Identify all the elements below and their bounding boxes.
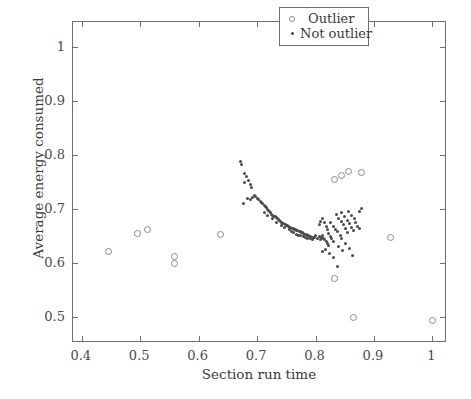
x-tick-label: 0.5: [129, 348, 150, 363]
plot-data-area: [73, 22, 445, 341]
x-tick-top: [432, 22, 433, 27]
data-point-not-outlier: [271, 217, 274, 220]
data-point-not-outlier: [324, 248, 327, 251]
data-point-not-outlier: [295, 233, 298, 236]
data-point-not-outlier: [341, 249, 344, 252]
data-point-not-outlier: [335, 213, 338, 216]
y-tick: [73, 101, 78, 102]
x-tick-label: 0.7: [246, 348, 267, 363]
data-point-outlier: [387, 234, 394, 241]
data-point-not-outlier: [326, 228, 329, 231]
data-point-not-outlier: [336, 230, 339, 233]
x-tick: [316, 336, 317, 341]
x-tick: [199, 336, 200, 341]
y-tick-label: 0.5: [30, 309, 65, 324]
data-point-not-outlier: [263, 211, 266, 214]
y-tick-right: [440, 263, 445, 264]
data-point-not-outlier: [348, 247, 351, 250]
x-tick-label: 1: [427, 348, 435, 363]
scatter-plot-figure: Average energy consumed Section run time…: [0, 0, 471, 399]
y-tick-label: 0.7: [30, 201, 65, 216]
x-tick-label: 0.8: [304, 348, 325, 363]
x-tick-top: [140, 22, 141, 27]
y-tick-right: [440, 209, 445, 210]
data-point-not-outlier: [337, 245, 340, 248]
data-point-not-outlier: [327, 244, 330, 247]
x-tick: [82, 336, 83, 341]
data-point-not-outlier: [340, 211, 343, 214]
data-point-not-outlier: [328, 252, 331, 255]
y-tick-label: 0.9: [30, 93, 65, 108]
data-point-outlier: [144, 226, 151, 233]
data-point-not-outlier: [343, 215, 346, 218]
data-point-not-outlier: [351, 254, 354, 257]
data-point-not-outlier: [346, 231, 349, 234]
data-point-not-outlier: [336, 265, 339, 268]
data-point-not-outlier: [342, 223, 345, 226]
data-point-outlier: [134, 230, 141, 237]
data-point-not-outlier: [247, 179, 250, 182]
data-point-not-outlier: [266, 214, 269, 217]
data-point-not-outlier: [353, 217, 356, 220]
x-tick: [140, 336, 141, 341]
legend-box: Outlier Not outlier: [279, 7, 369, 46]
data-point-not-outlier: [250, 186, 253, 189]
data-point-not-outlier: [321, 250, 324, 253]
data-point-outlier: [350, 314, 357, 321]
data-point-outlier: [331, 176, 338, 183]
x-tick-top: [82, 22, 83, 27]
y-axis-title: Average energy consumed: [30, 48, 46, 288]
x-axis-title: Section run time: [72, 366, 446, 382]
data-point-outlier: [331, 275, 338, 282]
data-point-not-outlier: [240, 163, 243, 166]
data-point-not-outlier: [354, 221, 357, 224]
data-point-not-outlier: [318, 223, 321, 226]
x-tick-label: 0.4: [70, 348, 91, 363]
y-tick: [73, 317, 78, 318]
x-tick-top: [257, 22, 258, 27]
data-point-outlier: [358, 169, 365, 176]
open-circle-icon: [285, 16, 299, 22]
x-tick: [257, 336, 258, 341]
y-tick: [73, 209, 78, 210]
data-point-not-outlier: [304, 236, 307, 239]
legend-entry-not-outlier: Not outlier: [285, 26, 363, 41]
data-point-not-outlier: [344, 242, 347, 245]
plot-frame: [72, 21, 446, 342]
data-point-outlier: [429, 317, 436, 324]
data-point-not-outlier: [329, 221, 332, 224]
data-point-outlier: [345, 168, 352, 175]
data-point-not-outlier: [283, 226, 286, 229]
x-tick: [374, 336, 375, 341]
y-tick-right: [440, 317, 445, 318]
data-point-not-outlier: [323, 221, 326, 224]
data-point-outlier: [217, 231, 224, 238]
y-tick-right: [440, 101, 445, 102]
data-point-not-outlier: [344, 227, 347, 230]
x-tick-top: [374, 22, 375, 27]
y-tick-label: 1: [30, 39, 65, 54]
data-point-not-outlier: [290, 230, 293, 233]
data-point-not-outlier: [321, 217, 324, 220]
data-point-not-outlier: [332, 240, 335, 243]
data-point-outlier: [171, 260, 178, 267]
data-point-not-outlier: [352, 229, 355, 232]
data-point-not-outlier: [347, 210, 350, 213]
data-point-not-outlier: [340, 237, 343, 240]
legend-label-outlier: Outlier: [308, 11, 354, 26]
data-point-not-outlier: [358, 210, 361, 213]
y-tick-right: [440, 47, 445, 48]
y-tick: [73, 263, 78, 264]
data-point-not-outlier: [332, 256, 335, 259]
x-tick-top: [199, 22, 200, 27]
data-point-not-outlier: [348, 222, 351, 225]
data-point-not-outlier: [275, 221, 278, 224]
y-tick-label: 0.8: [30, 147, 65, 162]
x-tick-label: 0.9: [363, 348, 384, 363]
data-point-outlier: [105, 248, 112, 255]
y-tick: [73, 155, 78, 156]
x-tick: [432, 336, 433, 341]
data-point-not-outlier: [358, 227, 361, 230]
dot-icon: [285, 32, 299, 35]
data-point-not-outlier: [242, 202, 245, 205]
